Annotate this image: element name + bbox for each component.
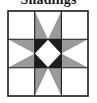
quilt-block-svg	[7, 10, 89, 97]
quilt-block	[7, 10, 89, 97]
cell-middle-left-star-point	[8, 39, 35, 67]
quilt-block-figure: Shadings	[0, 0, 97, 103]
cell-top-right-corner	[61, 11, 88, 39]
figure-caption: Shadings	[0, 0, 97, 9]
cell-top-left-corner	[8, 11, 35, 39]
cell-bottom-right-corner	[61, 68, 88, 96]
figure-caption-clip: Shadings	[0, 0, 97, 9]
cell-middle-right-star-point	[61, 39, 88, 67]
cell-bottom-left-corner	[8, 68, 35, 96]
